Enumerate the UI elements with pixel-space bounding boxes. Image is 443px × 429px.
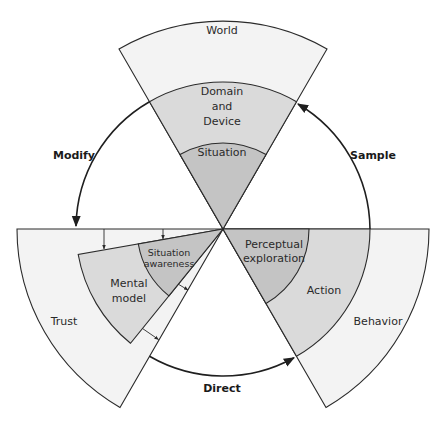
behavior-label: Behavior xyxy=(354,315,403,328)
situation-awareness-label-line2: awareness xyxy=(144,258,195,269)
sample-label: Sample xyxy=(350,149,396,162)
mental-model-label-line2: model xyxy=(112,292,146,305)
situation-awareness-label-line1: Situation xyxy=(148,247,190,258)
left-sector xyxy=(17,229,223,407)
modify-label: Modify xyxy=(53,149,95,162)
mental-model-label-line1: Mental xyxy=(110,277,147,290)
domain-label-line2: and xyxy=(212,100,233,113)
trust-label: Trust xyxy=(50,315,78,328)
perceptual-label-line1: Perceptual xyxy=(245,238,303,251)
world-label: World xyxy=(206,24,238,37)
domain-label-line1: Domain xyxy=(201,85,244,98)
perception-action-cycle-diagram: World Domain and Device Situation Trust … xyxy=(0,0,443,429)
modify-arrow xyxy=(76,102,150,226)
domain-label-line3: Device xyxy=(203,115,241,128)
sample-arrow xyxy=(298,104,370,229)
situation-label: Situation xyxy=(197,146,246,159)
direct-label: Direct xyxy=(203,382,241,395)
direct-arrow xyxy=(150,356,295,376)
action-label: Action xyxy=(307,284,341,297)
perceptual-label-line2: exploration xyxy=(243,252,305,265)
